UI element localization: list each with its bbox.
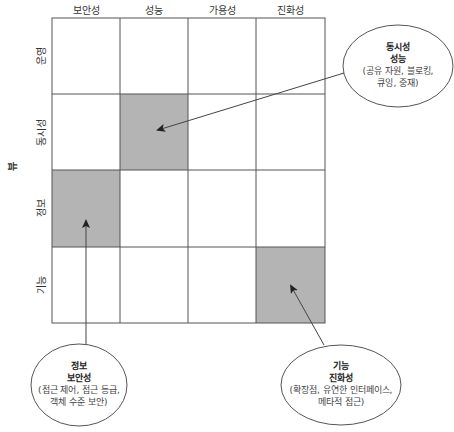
callout-detail: (접근 제어, 접근 등급, xyxy=(29,384,129,396)
column-header-availability: 가용성 xyxy=(188,2,256,17)
callout-detail: (공유 자원, 블로킹, xyxy=(343,65,453,77)
callout-view: 동시성 xyxy=(343,41,453,53)
callout-perspective: 성능 xyxy=(343,53,453,65)
column-header-security: 보안성 xyxy=(52,2,120,17)
callout-view: 정보 xyxy=(29,360,129,372)
callout-information: 정보 보안성 (접근 제어, 접근 등급, 객체 수준 보안) xyxy=(29,360,129,408)
column-header-evolution: 진화성 xyxy=(256,2,324,17)
callout-perspective: 보안성 xyxy=(29,372,129,384)
callout-perspective: 진화성 xyxy=(279,372,403,384)
callout-concurrency: 동시성 성능 (공유 자원, 블로킹, 큐잉, 중재) xyxy=(343,41,453,89)
row-label-operational: 운영 xyxy=(33,47,48,65)
callout-detail: 메타적 접근) xyxy=(279,396,403,408)
axis-label-view: 뷰 xyxy=(4,162,19,171)
callout-detail: 큐잉, 중재) xyxy=(343,77,453,89)
row-label-concurrency: 동시성 xyxy=(33,119,48,146)
row-label-information: 정보 xyxy=(33,199,48,217)
callout-view: 기능 xyxy=(279,360,403,372)
callout-functional: 기능 진화성 (확장점, 유연한 인터페이스, 메타적 접근) xyxy=(279,360,403,408)
cell-concurrency-performance xyxy=(120,94,188,170)
callout-detail: 객체 수준 보안) xyxy=(29,396,129,408)
callout-detail: (확장점, 유연한 인터페이스, xyxy=(279,384,403,396)
cell-functional-evolution xyxy=(256,247,325,323)
column-header-performance: 성능 xyxy=(120,2,188,17)
row-label-functional: 기능 xyxy=(33,276,48,294)
